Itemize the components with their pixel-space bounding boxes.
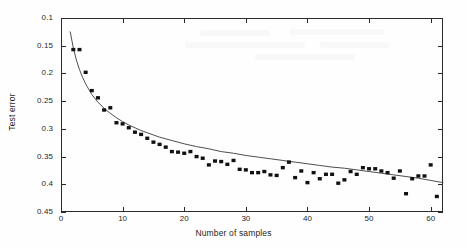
plot-vector-layer — [0, 0, 467, 247]
y-tick-mark — [61, 73, 66, 74]
scatter-point — [429, 163, 433, 166]
y-tick-label: 0.35 — [0, 153, 53, 161]
scatter-point — [355, 173, 359, 176]
x-tick-mark — [369, 207, 370, 212]
scatter-point — [102, 108, 106, 111]
figure-canvas: 0.450.40.350.30.250.20.150.1 01020304050… — [0, 0, 467, 247]
scatter-point — [373, 167, 377, 170]
x-tick-label: 50 — [354, 214, 384, 223]
scatter-point — [287, 160, 291, 163]
y-tick-mark-right — [438, 212, 443, 213]
scatter-point — [410, 177, 414, 180]
x-tick-mark — [61, 207, 62, 212]
scatter-point — [213, 159, 217, 162]
x-tick-mark-top — [123, 18, 124, 23]
scatter-point — [379, 169, 383, 172]
y-tick-label: 0.1 — [0, 14, 53, 22]
y-tick-mark — [61, 101, 66, 102]
scatter-point — [281, 166, 285, 169]
x-tick-mark — [431, 207, 432, 212]
y-tick-mark-right — [438, 46, 443, 47]
scatter-point — [342, 178, 346, 181]
x-tick-label: 30 — [231, 214, 261, 223]
x-tick-label: 20 — [169, 214, 199, 223]
scatter-point — [77, 48, 81, 51]
scatter-point — [435, 195, 439, 198]
scatter-point — [404, 192, 408, 195]
scatter-point — [145, 137, 149, 140]
scatter-point — [324, 173, 328, 176]
scatter-point — [201, 157, 205, 160]
scatter-point — [398, 169, 402, 172]
y-tick-mark-right — [438, 73, 443, 74]
y-tick-mark-right — [438, 157, 443, 158]
y-tick-mark — [61, 184, 66, 185]
x-tick-mark-top — [431, 18, 432, 23]
y-tick-mark-right — [438, 18, 443, 19]
scatter-point — [170, 150, 174, 153]
scatter-point — [423, 174, 427, 177]
x-tick-mark-top — [184, 18, 185, 23]
x-tick-mark — [307, 207, 308, 212]
scatter-point — [96, 96, 100, 99]
y-tick-mark-right — [438, 129, 443, 130]
scatter-point — [121, 122, 125, 125]
scatter-point — [262, 170, 266, 173]
y-tick-mark-right — [438, 184, 443, 185]
fitted-curve — [70, 32, 443, 183]
scatter-point — [392, 176, 396, 179]
scatter-point — [164, 145, 168, 148]
x-tick-label: 0 — [46, 214, 76, 223]
scatter-point — [349, 170, 353, 173]
x-axis-title: Number of samples — [0, 228, 467, 238]
x-tick-mark-top — [246, 18, 247, 23]
y-tick-label: 0.15 — [0, 42, 53, 50]
y-tick-label: 0.4 — [0, 180, 53, 188]
scatter-point — [108, 106, 112, 109]
scatter-point — [114, 121, 118, 124]
scatter-point — [225, 163, 229, 166]
scatter-point — [312, 171, 316, 174]
x-tick-mark — [184, 207, 185, 212]
scatter-point — [330, 173, 334, 176]
scatter-point — [151, 140, 155, 143]
x-tick-mark — [246, 207, 247, 212]
scatter-point — [127, 126, 131, 129]
y-tick-mark — [61, 46, 66, 47]
scatter-point — [275, 174, 279, 177]
scatter-point — [188, 150, 192, 153]
x-tick-mark-top — [369, 18, 370, 23]
scatter-point — [84, 71, 88, 74]
scatter-point — [336, 181, 340, 184]
scatter-markers — [71, 48, 439, 198]
scatter-point — [133, 130, 137, 133]
scatter-point — [299, 169, 303, 172]
x-tick-mark — [123, 207, 124, 212]
x-tick-label: 40 — [292, 214, 322, 223]
scatter-point — [367, 167, 371, 170]
scatter-point — [386, 171, 390, 174]
y-tick-mark-right — [438, 101, 443, 102]
y-tick-mark — [61, 212, 66, 213]
scatter-point — [318, 177, 322, 180]
scatter-point — [71, 48, 75, 51]
scatter-point — [195, 155, 199, 158]
y-tick-label: 0.2 — [0, 69, 53, 77]
x-tick-label: 10 — [108, 214, 138, 223]
scatter-point — [361, 166, 365, 169]
y-tick-mark — [61, 129, 66, 130]
y-tick-mark — [61, 157, 66, 158]
scatter-point — [416, 174, 420, 177]
x-tick-label: 60 — [416, 214, 446, 223]
x-tick-mark-top — [61, 18, 62, 23]
scatter-point — [250, 171, 254, 174]
scatter-point — [256, 171, 260, 174]
scatter-point — [293, 176, 297, 179]
scatter-point — [90, 89, 94, 92]
scatter-point — [182, 152, 186, 155]
scatter-point — [238, 168, 242, 171]
scatter-point — [232, 159, 236, 162]
scatter-point — [305, 181, 309, 184]
scatter-point — [176, 150, 180, 153]
x-tick-mark-top — [307, 18, 308, 23]
